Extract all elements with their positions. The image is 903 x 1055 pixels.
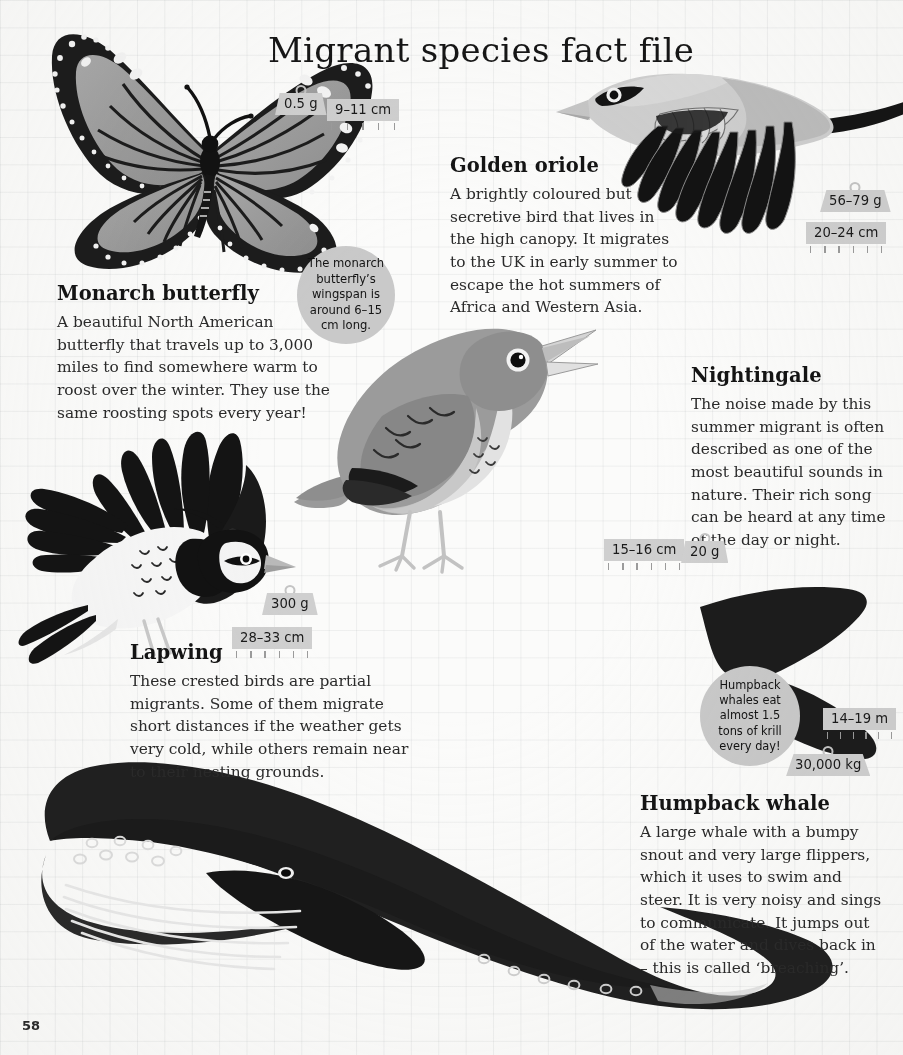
species-description-nightingale: The noise made by this summer migrant is… [691, 393, 889, 551]
length-value-lapwing: 28–33 cm [232, 627, 312, 649]
weight-value-monarch-butterfly: 0.5 g [275, 93, 327, 115]
species-name-golden-oriole: Golden oriole [450, 154, 678, 177]
ruler-ticks-icon [232, 649, 312, 658]
length-value-monarch-butterfly: 9–11 cm [327, 99, 399, 121]
fact-file-page: Migrant species fact file Monarch butter… [0, 0, 903, 1055]
species-block-lapwing: Lapwing These crested birds are partial … [130, 641, 410, 783]
fact-bubble-monarch-butterfly: The monarch butterfly’s wingspan is arou… [297, 246, 395, 344]
page-number: 58 [22, 1018, 40, 1033]
species-description-humpback-whale: A large whale with a bumpy snout and ver… [640, 821, 885, 979]
species-block-humpback-whale: Humpback whale A large whale with a bump… [640, 792, 885, 979]
ruler-ticks-icon [604, 561, 684, 570]
length-tag-monarch-butterfly: 9–11 cm [327, 99, 399, 130]
weight-value-lapwing: 300 g [262, 593, 318, 615]
length-tag-nightingale: 15–16 cm [604, 539, 684, 570]
species-name-humpback-whale: Humpback whale [640, 792, 885, 815]
length-value-nightingale: 15–16 cm [604, 539, 684, 561]
weight-tag-lapwing: 300 g [262, 585, 318, 615]
weight-tag-humpback-whale: 30,000 kg [786, 746, 870, 776]
species-block-monarch-butterfly: Monarch butterfly A beautiful North Amer… [57, 282, 335, 424]
species-block-golden-oriole: Golden oriole A brightly coloured but se… [450, 154, 678, 319]
species-description-golden-oriole: A brightly coloured but secretive bird t… [450, 183, 678, 319]
species-name-monarch-butterfly: Monarch butterfly [57, 282, 335, 305]
weight-tag-nightingale: 20 g [681, 533, 728, 563]
length-value-humpback-whale: 14–19 m [823, 708, 896, 730]
length-tag-golden-oriole: 20–24 cm [806, 222, 886, 253]
species-name-nightingale: Nightingale [691, 364, 889, 387]
page-title: Migrant species fact file [268, 30, 694, 70]
ruler-ticks-icon [806, 244, 886, 253]
species-block-nightingale: Nightingale The noise made by this summe… [691, 364, 889, 551]
weight-value-humpback-whale: 30,000 kg [786, 754, 870, 776]
weight-value-golden-oriole: 56–79 g [820, 190, 891, 212]
fact-bubble-humpback-whale: Humpback whales eat almost 1.5 tons of k… [700, 666, 800, 766]
length-value-golden-oriole: 20–24 cm [806, 222, 886, 244]
weight-value-nightingale: 20 g [681, 541, 728, 563]
length-tag-humpback-whale: 14–19 m [823, 708, 896, 739]
weight-tag-monarch-butterfly: 0.5 g [275, 85, 327, 115]
ruler-ticks-icon [823, 730, 896, 739]
ruler-ticks-icon [327, 121, 399, 130]
length-tag-lapwing: 28–33 cm [232, 627, 312, 658]
species-description-lapwing: These crested birds are partial migrants… [130, 670, 410, 783]
weight-tag-golden-oriole: 56–79 g [820, 182, 891, 212]
species-description-monarch-butterfly: A beautiful North American butterfly tha… [57, 311, 335, 424]
